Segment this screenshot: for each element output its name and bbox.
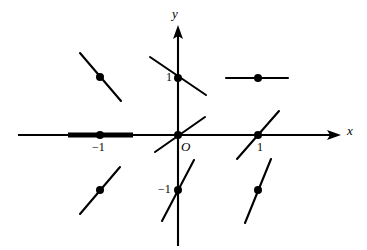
point-dot-bottom-center [174,186,182,194]
y-tick-label-one: 1 [166,71,172,83]
point-dot-top-center [174,74,182,82]
point-dot-origin [174,131,182,139]
x-tick-label-one: 1 [257,141,263,153]
y-tick-label-minus-one: −1 [158,183,171,195]
x-axis-label: x [347,124,353,137]
point-dot-bottom-left [96,186,104,194]
point-dot-mid-right [254,131,262,139]
point-dot-mid-left [96,131,104,139]
slope-field-figure: x y O −1 1 1 −1 [0,0,367,250]
point-dot-bottom-right [254,186,262,194]
point-dot-top-left [96,73,104,81]
y-axis-label: y [172,7,178,20]
figure-canvas [0,0,367,250]
origin-label: O [181,140,190,153]
x-tick-label-minus-one: −1 [92,141,105,153]
point-dot-top-right [254,74,262,82]
